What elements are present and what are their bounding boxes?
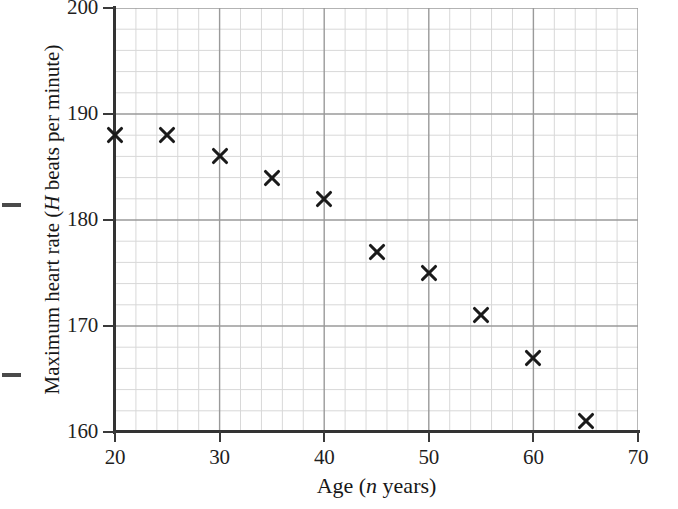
data-point-marker — [471, 305, 491, 325]
x-tick-label: 60 — [503, 446, 563, 468]
x-tick-label: 20 — [85, 446, 145, 468]
page-margin-mark-upper — [2, 203, 21, 207]
y-axis-title: Maximum heart rate (H beats per minute) — [41, 0, 64, 455]
grid-lines — [115, 8, 638, 432]
x-axis-spine — [113, 430, 640, 433]
data-point-marker — [262, 168, 282, 188]
data-point-marker — [314, 189, 334, 209]
x-axis-tick — [428, 431, 430, 442]
data-point-marker — [367, 242, 387, 262]
y-axis-tick — [103, 325, 115, 327]
page-margin-mark-lower — [2, 373, 21, 377]
y-axis-title-pre: Maximum heart rate ( — [40, 211, 64, 395]
x-axis-tick — [114, 431, 116, 442]
data-point-marker — [523, 348, 543, 368]
x-axis-title-pre: Age ( — [317, 473, 366, 498]
y-axis-title-variable: H — [40, 196, 64, 211]
x-tick-label: 40 — [294, 446, 354, 468]
x-tick-label: 70 — [608, 446, 668, 468]
x-axis-title-post: years) — [377, 473, 436, 498]
y-axis-tick — [103, 219, 115, 221]
scatter-plot-figure: 160170180190200203040506070 Maximum hear… — [0, 0, 678, 509]
x-axis-tick — [219, 431, 221, 442]
x-tick-label: 50 — [399, 446, 459, 468]
x-tick-label: 30 — [190, 446, 250, 468]
y-axis-tick — [103, 7, 115, 9]
x-axis-title: Age (n years) — [115, 474, 638, 498]
plot-area — [115, 8, 638, 432]
y-axis-tick — [103, 113, 115, 115]
y-axis-title-post: beats per minute) — [40, 45, 64, 196]
x-axis-tick — [323, 431, 325, 442]
x-axis-title-variable: n — [366, 473, 377, 498]
x-axis-tick — [532, 431, 534, 442]
x-axis-tick — [637, 431, 639, 442]
data-point-marker — [210, 146, 230, 166]
data-point-marker — [576, 411, 596, 431]
data-point-marker — [419, 263, 439, 283]
data-point-marker — [105, 125, 125, 145]
data-point-marker — [157, 125, 177, 145]
